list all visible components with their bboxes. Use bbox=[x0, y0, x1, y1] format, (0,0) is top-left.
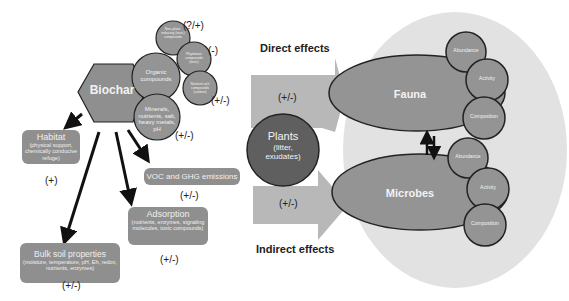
minerals-label: Minerals, nutrients, salt, heavy metals,… bbox=[136, 106, 178, 132]
bulk-soil-box: Bulk soil properties (moisture, temperat… bbox=[20, 243, 120, 283]
adsorption-detail: (nutrients, enzymes, signaling molecules… bbox=[128, 219, 208, 232]
bulk-soil-title: Bulk soil properties bbox=[20, 249, 120, 259]
fauna-label: Fauna bbox=[380, 88, 440, 100]
bulk-soil-sign: (+/-) bbox=[62, 280, 81, 291]
bulk-soil-detail: (moisture, temperature, pH, Eh, redox, n… bbox=[20, 259, 120, 272]
indirect-effects-sign: (+/-) bbox=[279, 198, 298, 209]
minerals-sign: (+/-) bbox=[175, 130, 194, 141]
habitat-title: Habitat bbox=[22, 132, 80, 142]
habitat-box: Habitat (physical support, chemically co… bbox=[22, 130, 80, 164]
biochar-label: Biochar bbox=[82, 84, 142, 97]
fauna-abundance: Abundance bbox=[446, 48, 486, 54]
voc-ghg-sign: (+/-) bbox=[180, 190, 199, 201]
organic-sub-1-sign: (?/+) bbox=[183, 20, 204, 31]
fauna-activity: Activity bbox=[467, 76, 507, 82]
microbes-label: Microbes bbox=[370, 187, 450, 199]
plants-label: Plants bbox=[250, 130, 316, 142]
microbes-abundance: Abundance bbox=[448, 154, 488, 160]
direct-effects-heading: Direct effects bbox=[260, 42, 330, 54]
adsorption-box: Adsorption (nutrients, enzymes, signalin… bbox=[128, 207, 208, 245]
organic-sub-3-label: Nutrient-rich compounds (carbon) bbox=[186, 83, 214, 95]
microbes-activity: Activity bbox=[468, 185, 508, 191]
adsorption-sign: (+/-) bbox=[160, 254, 179, 265]
fauna-composition: Composition bbox=[464, 114, 504, 120]
adsorption-title: Adsorption bbox=[128, 209, 208, 219]
voc-ghg-box: VOC and GHG emissions bbox=[144, 168, 240, 185]
organic-sub-2-label: Phytotoxic compounds (toxic) bbox=[180, 53, 208, 65]
organic-sub-2-sign: (-) bbox=[208, 45, 218, 56]
habitat-detail: (physical support, chemically conducive … bbox=[22, 142, 80, 161]
indirect-effects-heading: Indirect effects bbox=[256, 243, 334, 255]
microbes-composition: Composition bbox=[465, 221, 505, 227]
voc-ghg-title: VOC and GHG emissions bbox=[144, 168, 240, 185]
plants-detail: (litter, exudates) bbox=[260, 144, 306, 162]
direct-effects-sign: (+/-) bbox=[278, 92, 297, 103]
organic-compounds-label: Organic compounds bbox=[136, 69, 176, 82]
organic-sub-3-sign: (+/-) bbox=[211, 95, 230, 106]
habitat-sign: (+) bbox=[45, 175, 58, 186]
